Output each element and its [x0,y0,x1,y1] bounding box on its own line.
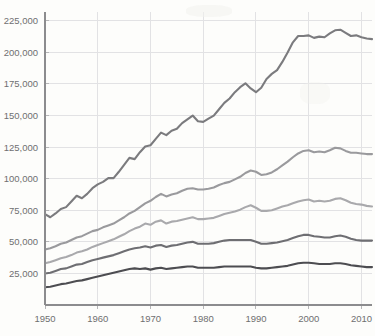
series-line-series-5 [45,263,372,288]
y-axis-labels-group: 25,00050,00075,000100,000125,000150,0001… [4,15,38,279]
data-series-group [45,30,372,288]
x-tick-label: 2000 [298,313,319,324]
x-tick-label: 1950 [34,313,55,324]
y-tick-label: 100,000 [4,173,38,184]
y-tick-label: 50,000 [9,236,38,247]
x-axis-labels-group: 1950196019701980199020002010 [34,313,372,324]
y-tick-label: 75,000 [9,205,38,216]
line-chart: 25,00050,00075,000100,000125,000150,0001… [0,0,375,336]
chart-plot-area: 25,00050,00075,000100,000125,000150,0001… [0,0,375,336]
x-tick-label: 1960 [87,313,108,324]
y-tick-label: 175,000 [4,78,38,89]
gridlines-group [45,12,372,305]
x-tick-label: 1990 [245,313,266,324]
paper-smudge-1 [186,5,232,17]
paper-smudge-2 [300,82,330,104]
y-tick-label: 150,000 [4,110,38,121]
y-tick-label: 25,000 [9,268,38,279]
x-tick-label: 1980 [193,313,214,324]
x-tick-label: 1970 [140,313,161,324]
y-tick-label: 125,000 [4,142,38,153]
y-tick-label: 225,000 [4,15,38,26]
x-tick-label: 2010 [351,313,372,324]
series-line-series-2 [45,148,372,250]
y-tick-label: 200,000 [4,47,38,58]
